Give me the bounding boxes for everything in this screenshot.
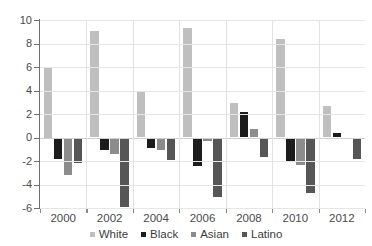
gridline-horizontal (40, 44, 365, 45)
legend-item-latino[interactable]: Latino (242, 228, 282, 241)
zero-line (40, 138, 365, 139)
black-swatch-icon (141, 232, 146, 237)
y-tick-mark (34, 44, 39, 45)
bar-latino-2002 (120, 138, 128, 208)
gridline-vertical (226, 20, 227, 208)
gridline-vertical (272, 20, 273, 208)
chart-legend: WhiteBlackAsianLatino (0, 228, 372, 241)
y-tick-label: -2 (6, 156, 32, 167)
bar-white-2002 (90, 31, 98, 137)
latino-swatch-icon (242, 232, 247, 237)
y-tick-mark (34, 208, 39, 209)
bar-latino-2006 (213, 138, 221, 198)
legend-label: White (99, 228, 128, 241)
gridline-horizontal (40, 208, 365, 209)
bar-asian-2004 (157, 138, 165, 150)
gridline-vertical (133, 20, 134, 208)
legend-item-white[interactable]: White (90, 228, 128, 241)
legend-label: Black (150, 228, 178, 241)
asian-swatch-icon (191, 232, 196, 237)
bar-white-2000 (44, 67, 52, 138)
bar-asian-2000 (64, 138, 72, 176)
bar-latino-2000 (74, 138, 82, 164)
bar-black-2008 (240, 112, 248, 138)
gridline-horizontal (40, 114, 365, 115)
gridline-horizontal (40, 20, 365, 21)
x-tick-label: 2012 (312, 212, 372, 225)
bar-white-2006 (183, 28, 191, 137)
y-tick-label: -6 (6, 203, 32, 214)
y-tick-label: 2 (6, 109, 32, 120)
bar-latino-2004 (167, 138, 175, 160)
gridline-vertical (179, 20, 180, 208)
bar-latino-2008 (260, 138, 268, 158)
y-tick-label: 4 (6, 85, 32, 96)
y-tick-mark (34, 185, 39, 186)
y-tick-label: 10 (6, 15, 32, 26)
bar-white-2008 (230, 103, 238, 138)
y-tick-mark (34, 138, 39, 139)
bar-asian-2008 (250, 129, 258, 137)
gridline-vertical (319, 20, 320, 208)
y-tick-mark (34, 161, 39, 162)
bar-black-2004 (147, 138, 155, 149)
y-tick-label: 8 (6, 38, 32, 49)
bar-black-2000 (54, 138, 62, 159)
gridline-horizontal (40, 91, 365, 92)
gridline-horizontal (40, 185, 365, 186)
gridline-horizontal (40, 67, 365, 68)
bar-black-2010 (286, 138, 294, 162)
gridline-vertical (86, 20, 87, 208)
y-tick-mark (34, 114, 39, 115)
y-tick-mark (34, 67, 39, 68)
bar-black-2002 (100, 138, 108, 151)
legend-item-asian[interactable]: Asian (191, 228, 229, 241)
legend-label: Asian (200, 228, 229, 241)
gridline-horizontal (40, 161, 365, 162)
bar-white-2010 (276, 39, 284, 138)
y-tick-mark (34, 91, 39, 92)
legend-label: Latino (251, 228, 282, 241)
y-tick-label: 0 (6, 132, 32, 143)
y-tick-mark (34, 20, 39, 21)
bar-asian-2002 (110, 138, 118, 154)
bar-chart: 1086420-2-4-6 20002002200420062008201020… (0, 0, 372, 246)
bar-white-2012 (323, 106, 331, 137)
white-swatch-icon (90, 232, 95, 237)
legend-item-black[interactable]: Black (141, 228, 178, 241)
y-tick-label: -4 (6, 179, 32, 190)
y-tick-label: 6 (6, 62, 32, 73)
bar-latino-2012 (353, 138, 361, 159)
